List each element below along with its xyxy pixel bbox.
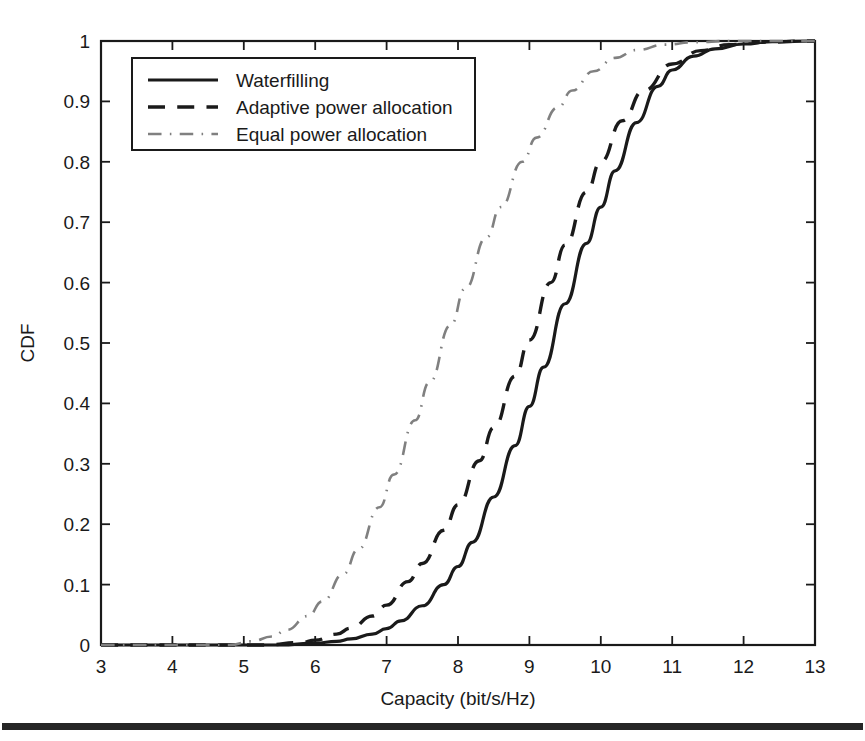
x-tick-label: 10 — [590, 656, 611, 677]
x-tick-label: 9 — [524, 656, 535, 677]
scan-artifact-bar — [2, 723, 863, 730]
x-tick-label: 12 — [733, 656, 754, 677]
y-axis-tick-labels: 00.10.20.30.40.50.60.70.80.91 — [64, 31, 91, 656]
figure-container: 345678910111213 00.10.20.30.40.50.60.70.… — [0, 0, 865, 741]
y-tick-label: 0.6 — [64, 273, 90, 294]
y-tick-label: 0.5 — [64, 333, 90, 354]
cdf-chart: 345678910111213 00.10.20.30.40.50.60.70.… — [0, 0, 865, 741]
x-tick-label: 11 — [662, 656, 682, 677]
y-tick-label: 0.9 — [64, 91, 90, 112]
x-tick-label: 8 — [453, 656, 464, 677]
legend-label-2: Equal power allocation — [236, 124, 427, 145]
y-axis-label: CDF — [17, 323, 38, 362]
x-tick-label: 13 — [804, 656, 825, 677]
x-axis-tick-labels: 345678910111213 — [96, 656, 826, 677]
x-tick-label: 5 — [239, 656, 250, 677]
y-tick-label: 0 — [79, 635, 90, 656]
x-tick-label: 6 — [310, 656, 321, 677]
x-axis-label: Capacity (bit/s/Hz) — [380, 688, 535, 709]
y-tick-label: 1 — [79, 31, 90, 52]
legend: WaterfillingAdaptive power allocationEqu… — [132, 58, 475, 150]
x-tick-label: 3 — [96, 656, 107, 677]
y-tick-label: 0.3 — [64, 454, 90, 475]
y-tick-label: 0.8 — [64, 152, 90, 173]
x-tick-label: 7 — [381, 656, 392, 677]
y-tick-label: 0.2 — [64, 514, 90, 535]
x-tick-label: 4 — [167, 656, 178, 677]
legend-label-1: Adaptive power allocation — [236, 97, 453, 118]
legend-label-0: Waterfilling — [236, 70, 329, 91]
y-tick-label: 0.1 — [64, 575, 90, 596]
y-tick-label: 0.7 — [64, 212, 90, 233]
y-tick-label: 0.4 — [64, 393, 91, 414]
